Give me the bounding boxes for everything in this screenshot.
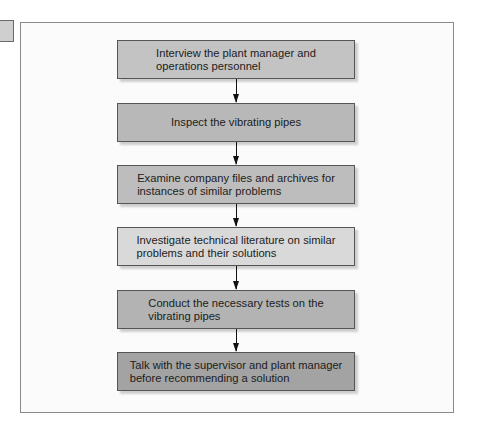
arrow-down-icon bbox=[236, 266, 237, 289]
step-talk-supervisor: Talk with the supervisor and plant manag… bbox=[117, 352, 355, 391]
step-conduct-tests: Conduct the necessary tests on the vibra… bbox=[117, 290, 355, 329]
arrow-down-icon bbox=[236, 79, 237, 102]
step-label: Investigate technical literature on simi… bbox=[137, 234, 336, 260]
step-label: Inspect the vibrating pipes bbox=[171, 116, 301, 129]
arrow-down-icon bbox=[236, 204, 237, 226]
step-label: Examine company files and archives for i… bbox=[137, 172, 335, 198]
step-examine-files: Examine company files and archives for i… bbox=[117, 165, 355, 204]
figure-tag-box bbox=[0, 20, 14, 42]
arrow-down-icon bbox=[236, 142, 237, 164]
step-interview: Interview the plant manager and operatio… bbox=[117, 40, 355, 79]
step-investigate-literature: Investigate technical literature on simi… bbox=[117, 227, 355, 266]
step-label: Talk with the supervisor and plant manag… bbox=[130, 359, 343, 385]
step-inspect: Inspect the vibrating pipes bbox=[117, 103, 355, 142]
step-label: Conduct the necessary tests on the vibra… bbox=[148, 297, 323, 323]
step-label: Interview the plant manager and operatio… bbox=[156, 47, 316, 73]
arrow-down-icon bbox=[236, 329, 237, 351]
